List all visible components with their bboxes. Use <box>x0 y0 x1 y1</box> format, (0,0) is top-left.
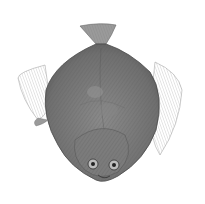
right-eye <box>109 160 119 170</box>
left-eye <box>88 159 98 169</box>
flatfish-illustration <box>0 0 205 204</box>
flatfish-drawing <box>0 0 205 204</box>
left-fin <box>18 65 50 120</box>
